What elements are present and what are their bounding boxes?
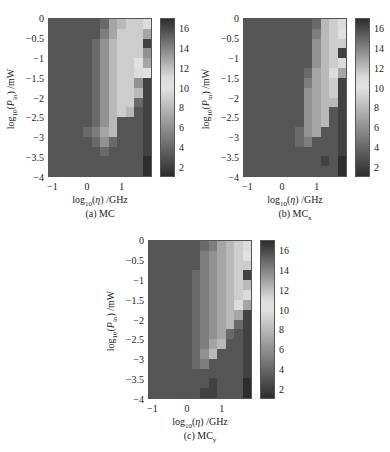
- heatmap-cell: [158, 270, 167, 280]
- colorbar-tick-label: 6: [374, 122, 379, 133]
- heatmap-cell: [92, 48, 101, 58]
- heatmap-cell: [58, 88, 67, 98]
- panel-c: 161412108642 0−0.5−1−1.5−2−2.5−3−3.5−4 −…: [100, 222, 295, 447]
- heatmap-cell: [83, 78, 92, 88]
- heatmap-cell: [92, 166, 101, 176]
- panel-b: 161412108642 0−0.5−1−1.5−2−2.5−3−3.5−4 −…: [195, 0, 390, 225]
- heatmap-cell: [100, 147, 109, 157]
- heatmap-cell: [149, 329, 158, 339]
- heatmap-cell: [83, 58, 92, 68]
- heatmap-cell: [100, 29, 109, 39]
- heatmap-cell: [253, 78, 262, 88]
- heatmap-cell: [304, 48, 313, 58]
- heatmap-cell: [234, 378, 243, 388]
- heatmap-cell: [226, 349, 235, 359]
- heatmap-cell: [192, 339, 201, 349]
- heatmap-cell: [175, 310, 184, 320]
- y-tick-label: −2: [213, 92, 239, 103]
- heatmap-cell: [166, 300, 175, 310]
- heatmap-cell: [321, 88, 330, 98]
- heatmap-cell: [166, 261, 175, 271]
- heatmap-cell: [253, 127, 262, 137]
- y-tick-label: −3.5: [118, 374, 144, 385]
- heatmap-cell: [109, 166, 118, 176]
- heatmap-cell: [304, 137, 313, 147]
- heatmap-cell: [321, 78, 330, 88]
- heatmap-cell: [58, 68, 67, 78]
- heatmap-cell: [166, 339, 175, 349]
- heatmap-cell: [192, 280, 201, 290]
- heatmap-cell: [158, 241, 167, 251]
- heatmap-cell: [270, 147, 279, 157]
- heatmap-cell: [287, 127, 296, 137]
- heatmap-cell: [175, 388, 184, 398]
- heatmap-cell: [83, 88, 92, 98]
- heatmap-cell: [321, 19, 330, 29]
- heatmap-cell: [312, 107, 321, 117]
- heatmap-cell: [92, 107, 101, 117]
- heatmap-cell: [192, 310, 201, 320]
- colorbar-tick-label: 6: [179, 122, 184, 133]
- colorbar-tick-label: 16: [179, 22, 189, 33]
- heatmap-cell: [287, 156, 296, 166]
- heatmap-cell: [209, 290, 218, 300]
- heatmap-cell: [143, 29, 152, 39]
- heatmap-cell: [75, 137, 84, 147]
- heatmap-cell: [278, 147, 287, 157]
- heatmap-cell: [134, 166, 143, 176]
- heatmap-cell: [329, 88, 338, 98]
- heatmap-cell: [149, 359, 158, 369]
- heatmap-cell: [126, 48, 135, 58]
- heatmap-cell: [234, 388, 243, 398]
- heatmap-cell: [244, 88, 253, 98]
- heatmap-cell: [100, 107, 109, 117]
- heatmap-cell: [58, 19, 67, 29]
- heatmap-cell: [200, 251, 209, 261]
- heatmap-cell: [338, 58, 347, 68]
- heatmap-cell: [192, 251, 201, 261]
- heatmap-cell: [83, 137, 92, 147]
- heatmap-cell: [134, 88, 143, 98]
- heatmap-cell: [217, 261, 226, 271]
- heatmap-cell: [200, 290, 209, 300]
- colorbar-tick-label: 12: [279, 284, 289, 295]
- heatmap-cell: [234, 261, 243, 271]
- heatmap-cell: [117, 39, 126, 49]
- heatmap-cell: [312, 29, 321, 39]
- heatmap-cell: [100, 68, 109, 78]
- heatmap-cell: [49, 147, 58, 157]
- x-tick-label: 0: [85, 181, 90, 192]
- heatmap-cell: [304, 127, 313, 137]
- heatmap-cell: [109, 127, 118, 137]
- heatmap-cell: [83, 39, 92, 49]
- heatmap-cell: [253, 68, 262, 78]
- heatmap-cell: [295, 88, 304, 98]
- heatmap-cell: [126, 88, 135, 98]
- heatmap-cell: [321, 166, 330, 176]
- heatmap-cell: [158, 329, 167, 339]
- colorbar-tick-label: 10: [279, 304, 289, 315]
- heatmap-cell: [49, 107, 58, 117]
- heatmap-cell: [183, 310, 192, 320]
- heatmap-cell: [200, 388, 209, 398]
- colorbar-tick-label: 4: [179, 142, 184, 153]
- heatmap-cell: [329, 98, 338, 108]
- heatmap-cell: [149, 339, 158, 349]
- heatmap-cell: [49, 137, 58, 147]
- heatmap-cell: [134, 19, 143, 29]
- heatmap-cell: [134, 58, 143, 68]
- y-tick-label: −1: [18, 52, 44, 63]
- heatmap-cell: [192, 270, 201, 280]
- heatmap-cell: [175, 339, 184, 349]
- heatmap-cell: [234, 241, 243, 251]
- heatmap-cell: [134, 156, 143, 166]
- heatmap-cell: [209, 251, 218, 261]
- heatmap-cell: [175, 270, 184, 280]
- heatmap-cell: [192, 349, 201, 359]
- heatmap-cell: [226, 290, 235, 300]
- heatmap-cell: [183, 359, 192, 369]
- heatmap-cell: [261, 88, 270, 98]
- heatmap-cell: [261, 147, 270, 157]
- heatmap-cell: [209, 339, 218, 349]
- heatmap-cell: [58, 107, 67, 117]
